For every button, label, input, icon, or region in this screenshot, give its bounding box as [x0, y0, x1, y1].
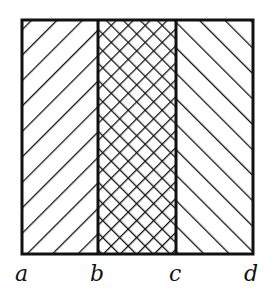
label-c: c: [169, 261, 181, 286]
label-d: d: [244, 261, 258, 286]
hatched-square-diagram: a b c d: [0, 0, 279, 297]
region-middle: [98, 20, 176, 254]
label-a: a: [15, 261, 28, 286]
region-right: [176, 20, 253, 254]
region-left: [22, 20, 98, 254]
label-b: b: [90, 261, 104, 286]
